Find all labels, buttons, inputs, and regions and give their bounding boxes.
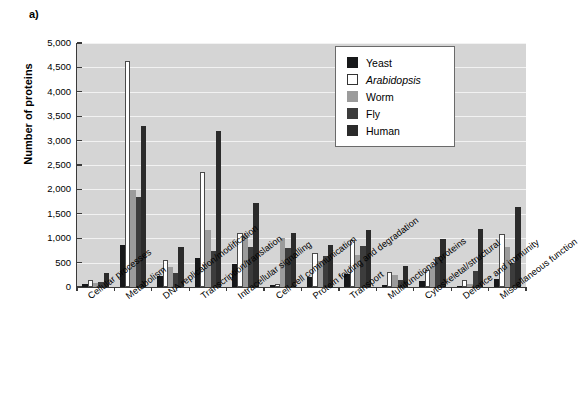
x-tick-mark xyxy=(189,287,190,291)
x-tick-mark xyxy=(226,287,227,291)
bar-human xyxy=(515,207,520,287)
bar-group xyxy=(227,43,264,287)
bar-group xyxy=(451,43,488,287)
legend-item-arabidopsis: Arabidopsis xyxy=(336,71,454,88)
bar-group xyxy=(264,43,301,287)
legend-swatch-fly xyxy=(347,108,358,119)
x-tick-mark xyxy=(151,287,152,291)
bar-human xyxy=(291,233,296,287)
legend-swatch-yeast xyxy=(347,57,358,68)
y-tick-label: 500 xyxy=(5,257,71,268)
y-tick-label: 5,000 xyxy=(5,37,71,48)
y-tick-label: 0 xyxy=(5,281,71,292)
plot-area xyxy=(76,43,526,288)
x-tick-mark xyxy=(76,287,77,291)
bar-group xyxy=(77,43,114,287)
bar-human xyxy=(328,245,333,287)
bar-human xyxy=(478,229,483,287)
x-tick-mark xyxy=(338,287,339,291)
legend-swatch-arabidopsis xyxy=(347,74,358,85)
bar-group xyxy=(489,43,526,287)
legend-label-yeast: Yeast xyxy=(366,57,392,69)
y-axis: 05001,0001,5002,0002,5003,0003,5004,0004… xyxy=(0,43,71,287)
legend-item-human: Human xyxy=(336,122,454,139)
bar-human xyxy=(440,239,445,287)
y-tick-label: 2,000 xyxy=(5,183,71,194)
legend-swatch-worm xyxy=(347,91,358,102)
x-tick-mark xyxy=(488,287,489,291)
y-tick-label: 3,000 xyxy=(5,135,71,146)
legend-label-human: Human xyxy=(366,125,400,137)
y-tick-label: 1,000 xyxy=(5,232,71,243)
y-tick-label: 1,500 xyxy=(5,208,71,219)
bar-human xyxy=(104,273,109,287)
x-tick-mark xyxy=(451,287,452,291)
y-tick-label: 3,500 xyxy=(5,110,71,121)
legend-label-fly: Fly xyxy=(366,108,380,120)
x-tick-mark xyxy=(376,287,377,291)
bar-human xyxy=(216,131,221,287)
y-tick-label: 2,500 xyxy=(5,159,71,170)
legend-item-worm: Worm xyxy=(336,88,454,105)
legend-swatch-human xyxy=(347,125,358,136)
bar-group xyxy=(302,43,339,287)
bar-human xyxy=(178,247,183,287)
y-tick-label: 4,500 xyxy=(5,61,71,72)
x-tick-mark xyxy=(301,287,302,291)
bar-human xyxy=(253,203,258,287)
bar-group xyxy=(114,43,151,287)
x-tick-mark xyxy=(525,287,526,291)
chart-legend: YeastArabidopsisWormFlyHuman xyxy=(335,46,455,147)
x-tick-mark xyxy=(114,287,115,291)
bar-human xyxy=(403,266,408,287)
bar-human xyxy=(366,230,371,287)
legend-item-fly: Fly xyxy=(336,105,454,122)
bar-group xyxy=(189,43,226,287)
y-tick-label: 4,000 xyxy=(5,86,71,97)
bar-human xyxy=(141,126,146,287)
legend-label-arabidopsis: Arabidopsis xyxy=(366,74,421,86)
x-tick-mark xyxy=(413,287,414,291)
x-tick-mark xyxy=(263,287,264,291)
legend-item-yeast: Yeast xyxy=(336,54,454,71)
legend-label-worm: Worm xyxy=(366,91,394,103)
bar-group xyxy=(152,43,189,287)
